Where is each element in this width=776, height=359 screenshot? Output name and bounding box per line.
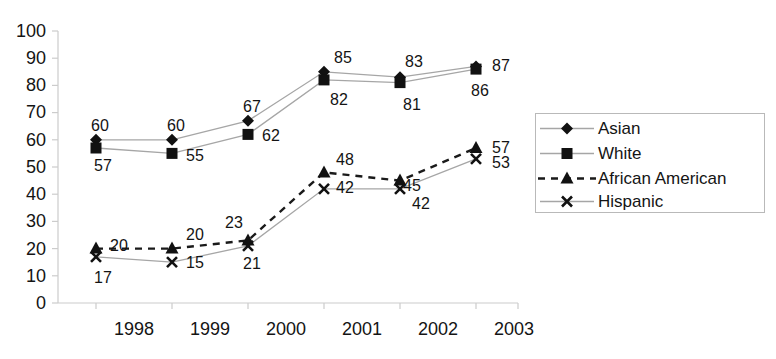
data-label-hispanic-2003: 53 <box>492 155 510 171</box>
y-tick-label: 90 <box>2 49 46 67</box>
series-markers <box>90 60 483 267</box>
data-label-african-american-2002: 45 <box>403 178 421 194</box>
data-label-white-1999: 55 <box>186 148 204 164</box>
marker-group-asian <box>90 60 482 145</box>
data-label-hispanic-2000: 21 <box>243 256 261 272</box>
data-label-white-2001: 82 <box>330 92 348 108</box>
data-label-hispanic-1999: 15 <box>186 255 204 271</box>
y-tick-label: 10 <box>2 267 46 285</box>
x-tick-label-1998: 1998 <box>94 320 174 338</box>
data-label-white-2000: 62 <box>262 128 280 144</box>
data-label-asian-1998: 60 <box>91 118 109 134</box>
y-tick-label: 80 <box>2 76 46 94</box>
data-label-hispanic-2002: 42 <box>412 196 430 212</box>
data-label-hispanic-2001: 42 <box>336 180 354 196</box>
data-label-african-american-2001: 48 <box>336 152 354 168</box>
y-tick-label: 20 <box>2 240 46 258</box>
data-label-white-1998: 57 <box>94 158 112 174</box>
diamond-marker-icon <box>536 116 598 141</box>
data-label-asian-1999: 60 <box>167 118 185 134</box>
x-marker-icon <box>536 189 598 214</box>
data-label-african-american-1998: 20 <box>110 238 128 254</box>
y-tick-label: 100 <box>2 22 46 40</box>
x-tick-marks <box>96 303 518 309</box>
y-tick-label: 50 <box>2 158 46 176</box>
data-label-african-american-1999: 20 <box>186 227 204 243</box>
y-tick-label: 30 <box>2 212 46 230</box>
legend-label-hispanic: Hispanic <box>598 193 663 210</box>
data-label-asian-2003: 87 <box>492 58 510 74</box>
data-label-african-american-2000: 23 <box>225 215 243 231</box>
axis-lines <box>58 31 518 303</box>
data-label-asian-2001: 85 <box>334 50 352 66</box>
data-label-white-2002: 81 <box>403 97 421 113</box>
x-tick-label-2002: 2002 <box>398 320 478 338</box>
legend-item-african-american[interactable]: African American <box>536 166 766 191</box>
legend-label-african-american: African American <box>598 170 727 187</box>
chart-root: 100 90 80 70 60 50 40 30 20 10 0 1998 19… <box>0 0 776 359</box>
x-tick-label-1999: 1999 <box>170 320 250 338</box>
y-tick-label: 0 <box>2 294 46 312</box>
x-tick-label-2000: 2000 <box>246 320 326 338</box>
y-tick-marks <box>52 31 58 303</box>
data-label-asian-2000: 67 <box>243 99 261 115</box>
data-label-asian-2002: 83 <box>405 54 423 70</box>
legend-label-white: White <box>598 145 641 162</box>
legend-item-hispanic[interactable]: Hispanic <box>536 189 766 214</box>
y-tick-label: 40 <box>2 185 46 203</box>
square-marker-icon <box>536 141 598 166</box>
legend-item-asian[interactable]: Asian <box>536 116 766 141</box>
chart-legend: Asian White African American <box>535 113 765 213</box>
x-tick-label-2001: 2001 <box>322 320 402 338</box>
data-label-hispanic-1998: 17 <box>94 270 112 286</box>
y-tick-label: 70 <box>2 103 46 121</box>
data-label-white-2003: 86 <box>471 83 489 99</box>
legend-label-asian: Asian <box>598 120 641 137</box>
legend-item-white[interactable]: White <box>536 141 766 166</box>
triangle-marker-icon <box>536 166 598 191</box>
x-tick-label-2003: 2003 <box>474 320 554 338</box>
y-tick-label: 60 <box>2 131 46 149</box>
